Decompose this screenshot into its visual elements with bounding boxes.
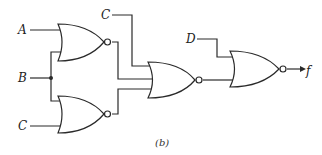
junction-dot bbox=[49, 76, 53, 80]
nor-gate-2 bbox=[58, 96, 111, 133]
input-label-a: A bbox=[17, 23, 27, 37]
input-label-d: D bbox=[185, 32, 196, 46]
logic-diagram: A B C C D f (b) bbox=[0, 0, 322, 155]
input-label-c-top: C bbox=[101, 8, 110, 22]
nor-gate-1 bbox=[58, 24, 111, 61]
nor-gate-3 bbox=[148, 62, 202, 98]
input-label-b: B bbox=[17, 71, 27, 85]
figure-caption: (b) bbox=[155, 137, 169, 148]
nor-gate-4 bbox=[230, 51, 286, 87]
input-label-c-bottom: C bbox=[18, 119, 27, 133]
output-label-f: f bbox=[305, 64, 313, 78]
